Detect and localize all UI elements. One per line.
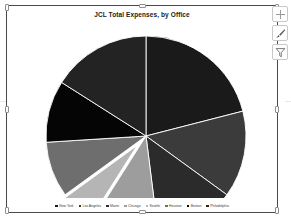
legend-item-new-york[interactable]: New York	[55, 204, 73, 208]
legend-label: Miami	[110, 204, 119, 208]
plot-area[interactable]	[7, 18, 277, 198]
legend-item-philadelphia[interactable]: Philadelphia	[206, 204, 228, 208]
legend-label: Los Angeles	[83, 204, 101, 208]
pie-chart[interactable]	[7, 18, 277, 198]
legend-swatch-icon	[146, 205, 149, 208]
resize-handle-top-center[interactable]	[139, 4, 146, 8]
chart-elements-button[interactable]	[272, 6, 288, 22]
legend-item-seattle[interactable]: Seattle	[146, 204, 161, 208]
sheet-gridline	[285, 101, 291, 102]
legend-item-chicago[interactable]: Chicago	[124, 204, 140, 208]
worksheet-background: JCL Total Expenses, by Office New YorkLo…	[0, 0, 291, 218]
legend-item-boston[interactable]: Boston	[187, 204, 202, 208]
resize-handle-bottom-center[interactable]	[139, 210, 146, 214]
resize-handle-bottom-right[interactable]	[275, 207, 279, 214]
legend-label: Seattle	[150, 204, 161, 208]
legend-label: Houston	[169, 204, 182, 208]
plus-icon	[275, 9, 286, 20]
brush-icon	[275, 28, 286, 39]
resize-handle-middle-left[interactable]	[5, 106, 9, 113]
legend-swatch-icon	[206, 205, 209, 208]
resize-handle-top-left[interactable]	[5, 4, 9, 11]
chart-legend[interactable]: New YorkLos AngelesMiamiChicagoSeattleHo…	[7, 204, 277, 208]
legend-swatch-icon	[106, 205, 109, 208]
resize-handle-bottom-left[interactable]	[5, 207, 9, 214]
legend-swatch-icon	[187, 205, 190, 208]
legend-swatch-icon	[124, 205, 127, 208]
legend-swatch-icon	[79, 205, 82, 208]
legend-item-los-angeles[interactable]: Los Angeles	[79, 204, 101, 208]
chart-object[interactable]: JCL Total Expenses, by Office New YorkLo…	[6, 5, 278, 213]
legend-item-houston[interactable]: Houston	[165, 204, 182, 208]
legend-label: New York	[59, 204, 73, 208]
legend-label: Chicago	[128, 204, 140, 208]
chart-styles-button[interactable]	[272, 25, 288, 41]
legend-item-miami[interactable]: Miami	[106, 204, 119, 208]
chart-side-buttons[interactable]	[272, 6, 289, 60]
chart-filters-button[interactable]	[272, 44, 288, 60]
legend-label: Philadelphia	[210, 204, 228, 208]
funnel-icon	[275, 47, 286, 58]
resize-handle-middle-right[interactable]	[275, 106, 279, 113]
legend-label: Boston	[191, 204, 202, 208]
legend-swatch-icon	[165, 205, 168, 208]
legend-swatch-icon	[55, 205, 58, 208]
